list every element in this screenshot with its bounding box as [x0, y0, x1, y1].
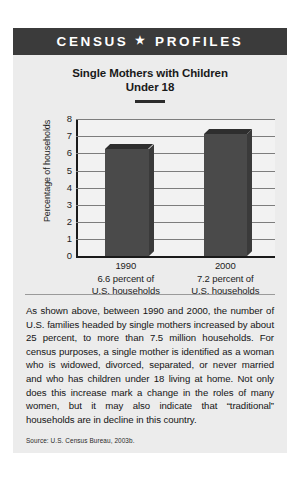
chart-title-line-2: Under 18 [126, 81, 174, 93]
y-tick-label: 5 [67, 166, 72, 176]
star-icon: ★ [135, 35, 148, 46]
y-tick-label: 0 [67, 252, 72, 262]
y-axis-title: Percentage of households [42, 101, 52, 241]
header-title-right: PROFILES [155, 34, 243, 49]
x-axis-labels: 19906.6 percent ofU.S. households20007.2… [76, 260, 275, 302]
x-axis-value-label: 6.6 percent of [76, 273, 176, 286]
plot: 012345678 [76, 119, 275, 258]
y-tick-label: 7 [67, 131, 72, 141]
x-axis-unit-label: U.S. households [176, 285, 276, 298]
bar-side-face [247, 130, 252, 257]
chart-block: Single Mothers with Children Under 18 Pe… [13, 55, 287, 291]
y-tick-label: 2 [67, 217, 72, 227]
bar-side-face [149, 144, 154, 256]
y-tick-label: 8 [67, 114, 72, 124]
header-title-left: CENSUS [57, 34, 129, 49]
x-axis-line [76, 256, 275, 258]
x-axis-label-group: 20007.2 percent ofU.S. households [176, 260, 276, 298]
x-axis-unit-label: U.S. households [76, 285, 176, 298]
x-axis-label-group: 19906.6 percent ofU.S. households [76, 260, 176, 298]
bar [204, 134, 247, 256]
x-axis-category-label: 1990 [76, 260, 176, 273]
chart-title-line-1: Single Mothers with Children [72, 67, 228, 79]
x-axis-category-label: 2000 [176, 260, 276, 273]
x-axis-value-label: 7.2 percent of [176, 273, 276, 286]
body-paragraph: As shown above, between 1990 and 2000, t… [13, 295, 287, 437]
title-rule-divider [135, 100, 165, 103]
figure-card: CENSUS ★ PROFILES Single Mothers with Ch… [13, 28, 287, 453]
plot-wrapper: Percentage of households 012345678 19906… [23, 110, 277, 285]
y-tick-label: 3 [67, 200, 72, 210]
y-tick-label: 1 [67, 234, 72, 244]
figure-header-title: CENSUS ★ PROFILES [57, 34, 244, 49]
bar-top-face [105, 144, 154, 149]
bar-series [78, 119, 275, 256]
census-profiles-figure: CENSUS ★ PROFILES Single Mothers with Ch… [0, 0, 299, 504]
bar-front-face [105, 149, 148, 256]
y-tick-label: 4 [67, 183, 72, 193]
source-note: Source: U.S. Census Bureau, 2003b. [13, 437, 287, 453]
chart-title: Single Mothers with Children Under 18 [23, 66, 277, 94]
y-tick-label: 6 [67, 149, 72, 159]
figure-header-bar: CENSUS ★ PROFILES [13, 28, 287, 55]
bar-top-face [204, 129, 253, 134]
bar-front-face [204, 134, 247, 256]
bar [105, 149, 148, 256]
